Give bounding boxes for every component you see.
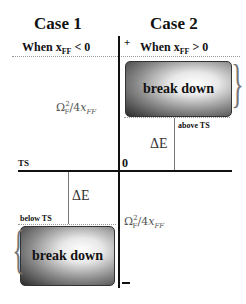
break-down-box-bottom: break down <box>20 226 115 286</box>
delta-e-arrow-top <box>174 118 175 170</box>
below-ts-label: below TS <box>20 214 52 223</box>
plus-sign: + <box>124 36 130 48</box>
vertical-axis <box>118 36 120 288</box>
box-bottom-dotted <box>18 224 116 225</box>
omega-top: Ω2F/4xFF <box>56 100 96 116</box>
break-down-box-top: break down <box>125 61 232 117</box>
ts-label: TS <box>18 158 29 168</box>
brace-right-icon: } <box>231 58 243 110</box>
zero-label: 0 <box>122 156 128 171</box>
case1-title: Case 1 <box>34 14 82 34</box>
delta-e-arrow-bottom <box>68 172 69 224</box>
case2-title: Case 2 <box>150 14 198 34</box>
case2-condition: When xFF > 0 <box>140 40 208 56</box>
omega-bottom: Ω2F/4xFF <box>124 214 164 230</box>
delta-e-bottom: ΔE <box>72 188 90 204</box>
brace-left-icon: { <box>12 224 24 276</box>
delta-e-top: ΔE <box>150 136 168 152</box>
box-top-dotted <box>124 117 230 118</box>
above-ts-label: above TS <box>178 121 210 130</box>
top-dotted-line <box>12 56 240 57</box>
case1-condition: When xFF < 0 <box>22 40 90 56</box>
minus-sign <box>122 282 130 284</box>
